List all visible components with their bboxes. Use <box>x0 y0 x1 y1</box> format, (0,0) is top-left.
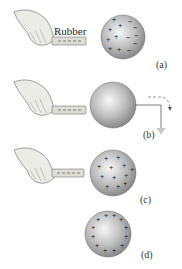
panel-label-a: (a) <box>156 59 167 71</box>
svg-text:+: + <box>116 154 120 162</box>
svg-text:+: + <box>106 36 110 44</box>
svg-text:+: + <box>103 247 107 255</box>
svg-text:+: + <box>116 183 120 191</box>
panel-d: ++++ ++++ ++++ (d) <box>85 211 153 261</box>
svg-text:+: + <box>119 216 123 224</box>
panel-b: (b) <box>14 80 172 141</box>
panel-a: Rubber +++ ++++ −−− −−− (a) <box>14 10 167 71</box>
svg-text:−: − <box>128 18 132 26</box>
svg-text:+: + <box>95 242 99 250</box>
svg-text:+: + <box>97 163 101 171</box>
hand-icon <box>14 80 54 115</box>
rubber-label: Rubber <box>54 25 87 37</box>
svg-text:+: + <box>124 233 128 241</box>
svg-text:+: + <box>91 233 95 241</box>
svg-text:+: + <box>108 26 112 34</box>
svg-text:+: + <box>109 164 113 172</box>
panel-c: ++ +++ ++++ +++ (c) <box>14 148 151 206</box>
svg-text:+: + <box>117 46 121 54</box>
arrowhead-icon <box>168 107 172 111</box>
svg-text:+: + <box>112 247 116 255</box>
electron-flow-arrow-icon <box>148 97 170 108</box>
ground-wire <box>136 105 161 128</box>
svg-text:−: − <box>126 34 130 42</box>
svg-text:+: + <box>118 22 122 30</box>
svg-text:−: − <box>127 47 131 55</box>
svg-text:−: − <box>133 40 137 48</box>
sphere-b <box>90 82 136 128</box>
ground-icon <box>157 129 165 133</box>
svg-text:−: − <box>134 32 138 40</box>
svg-text:+: + <box>96 216 100 224</box>
svg-text:+: + <box>124 172 128 180</box>
svg-text:+: + <box>112 16 116 24</box>
svg-text:+: + <box>120 242 124 250</box>
svg-text:+: + <box>114 33 118 41</box>
svg-text:+: + <box>122 162 126 170</box>
hand-icon <box>14 148 54 183</box>
svg-text:+: + <box>104 155 108 163</box>
panel-label-c: (c) <box>140 194 151 206</box>
svg-text:+: + <box>105 183 109 191</box>
svg-text:+: + <box>112 174 116 182</box>
hand-icon <box>14 10 54 45</box>
svg-text:+: + <box>100 173 104 181</box>
svg-text:+: + <box>108 45 112 53</box>
panel-label-d: (d) <box>141 249 153 261</box>
svg-text:+: + <box>123 180 127 188</box>
svg-text:−: − <box>133 24 137 32</box>
svg-text:+: + <box>130 166 134 174</box>
svg-text:+: + <box>104 212 108 220</box>
panel-label-b: (b) <box>143 129 155 141</box>
svg-text:+: + <box>91 224 95 232</box>
svg-text:+: + <box>124 224 128 232</box>
induction-diagram: Rubber +++ ++++ −−− −−− (a) (b) ++ +++ <box>0 0 182 269</box>
svg-text:+: + <box>112 212 116 220</box>
